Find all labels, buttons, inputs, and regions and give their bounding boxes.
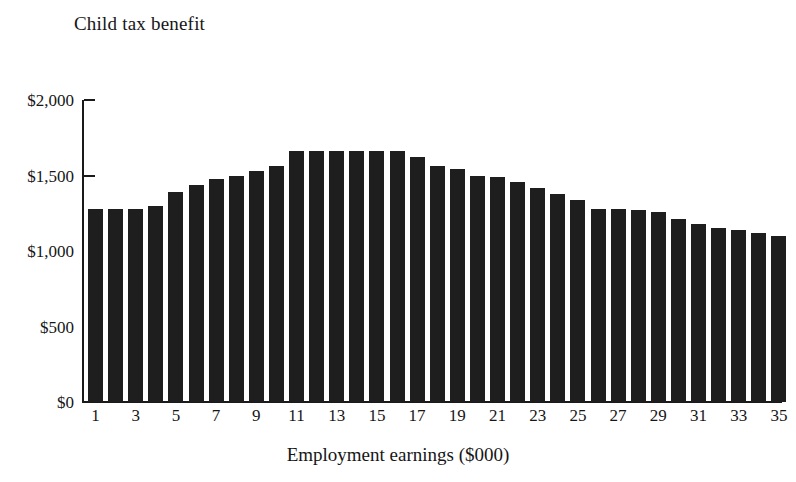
x-axis-tick-label: 13 xyxy=(328,406,345,426)
bar xyxy=(369,151,384,402)
x-axis-tick-label: 23 xyxy=(529,406,546,426)
bar xyxy=(329,151,344,402)
bar xyxy=(711,228,726,402)
chart-title: Child tax benefit xyxy=(74,12,205,36)
y-axis-tick-label: $500 xyxy=(40,319,74,336)
bar xyxy=(671,219,686,402)
bar xyxy=(771,236,786,402)
x-axis-tick-label: 3 xyxy=(131,406,140,426)
x-axis-title: Employment earnings ($000) xyxy=(0,443,796,467)
bar xyxy=(209,179,224,402)
x-axis-tick-label: 25 xyxy=(569,406,586,426)
bar xyxy=(349,151,364,402)
bar xyxy=(450,169,465,402)
x-axis-tick-label: 31 xyxy=(690,406,707,426)
bar xyxy=(390,151,405,402)
x-axis-tick-label: 5 xyxy=(172,406,181,426)
bar-series xyxy=(84,100,784,402)
bar xyxy=(731,230,746,402)
bar xyxy=(611,209,626,402)
chart-figure: Child tax benefit $0$500$1,000$1,500$2,0… xyxy=(0,0,796,482)
bar xyxy=(249,171,264,402)
bar xyxy=(88,209,103,402)
x-axis-tick-label: 1 xyxy=(91,406,100,426)
bar xyxy=(168,192,183,402)
y-axis-tick-mark xyxy=(84,175,95,177)
bar xyxy=(591,209,606,402)
bar xyxy=(269,166,284,402)
bar xyxy=(530,188,545,402)
x-axis-tick-label: 21 xyxy=(489,406,506,426)
x-axis-labels: 1357911131517192123252729313335 xyxy=(82,406,788,430)
plot-area xyxy=(82,100,788,402)
x-axis-tick-label: 27 xyxy=(610,406,627,426)
bar xyxy=(108,209,123,402)
x-axis-tick-label: 7 xyxy=(212,406,221,426)
x-axis-tick-label: 19 xyxy=(449,406,466,426)
bar xyxy=(229,176,244,403)
bar xyxy=(651,212,666,402)
bar xyxy=(550,194,565,402)
bar xyxy=(510,182,525,402)
y-axis-tick-label: $1,000 xyxy=(27,243,74,260)
y-axis-tick-label: $1,500 xyxy=(27,168,74,185)
x-axis-tick-label: 17 xyxy=(409,406,426,426)
bar xyxy=(751,233,766,402)
x-axis-tick-label: 15 xyxy=(368,406,385,426)
y-axis-tick-label: $2,000 xyxy=(27,92,74,109)
bar xyxy=(189,185,204,402)
bar xyxy=(309,151,324,402)
bar xyxy=(289,151,304,402)
bar xyxy=(148,206,163,402)
x-axis-tick-label: 11 xyxy=(288,406,304,426)
bar xyxy=(691,224,706,402)
x-axis-tick-label: 33 xyxy=(730,406,747,426)
bar xyxy=(570,200,585,402)
x-axis-tick-label: 35 xyxy=(770,406,787,426)
y-axis-tick-label: $0 xyxy=(57,394,74,411)
bar xyxy=(410,157,425,402)
bar xyxy=(470,176,485,403)
x-axis-tick-label: 9 xyxy=(252,406,261,426)
y-axis-tick-mark xyxy=(84,99,95,101)
bar xyxy=(128,209,143,402)
y-axis-labels: $0$500$1,000$1,500$2,000 xyxy=(0,100,74,403)
bar xyxy=(430,166,445,402)
x-axis-tick-label: 29 xyxy=(650,406,667,426)
bar xyxy=(490,177,505,402)
bar xyxy=(631,210,646,402)
